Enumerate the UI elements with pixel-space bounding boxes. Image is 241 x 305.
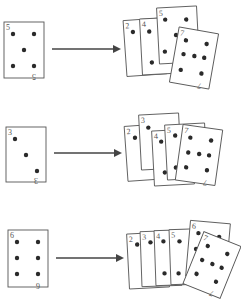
card-rank: 3 [141, 116, 145, 125]
card-rank: 6 [10, 231, 14, 240]
right-arrow-icon [54, 149, 122, 157]
card-rank-bottom: 6 [36, 281, 40, 290]
right-arrow-icon [56, 254, 124, 262]
right-arrow-icon [52, 45, 121, 53]
card-rank: 2 [125, 21, 130, 30]
card-rank: 4 [156, 232, 160, 241]
card-rank: 3 [8, 128, 12, 137]
card-rank: 4 [154, 132, 158, 141]
card-rank-bottom: 5 [32, 72, 36, 81]
card-diagram: 5 5 2 4 [0, 0, 241, 305]
source-card-3: 3 3 [6, 127, 46, 185]
pip [36, 240, 40, 244]
card-rank: 5 [167, 126, 171, 135]
pip [36, 256, 40, 260]
card-rank: 5 [6, 23, 10, 32]
pip [36, 272, 40, 276]
pip [15, 240, 19, 244]
source-card-6: 6 6 [8, 230, 48, 290]
pip [32, 64, 36, 68]
card-rank: 5 [159, 9, 163, 18]
card-rank-bottom: 3 [34, 176, 38, 185]
hand-2: 2 3 4 5 7 7 [124, 113, 223, 188]
pip [22, 48, 26, 52]
row-2: 3 3 2 3 4 [6, 113, 223, 188]
pip [32, 32, 36, 36]
pip [24, 153, 28, 157]
card-rank: 5 [171, 231, 175, 240]
card-rank: 6 [192, 222, 197, 231]
pip [35, 169, 39, 173]
hand-3: 2 3 4 5 6 [127, 220, 241, 301]
card-rank: 2 [129, 235, 133, 244]
hand-card-7: 7 7 [175, 124, 223, 188]
row-3: 6 6 2 3 4 [8, 220, 241, 301]
hand-1: 2 4 5 7 7 [123, 6, 218, 92]
card-rank: 2 [126, 127, 131, 136]
card-rank: 4 [142, 20, 146, 29]
source-card-5: 5 5 [4, 22, 44, 81]
card-rank: 3 [142, 233, 146, 242]
pip [11, 64, 15, 68]
pip [13, 137, 17, 141]
row-1: 5 5 2 4 [4, 6, 219, 92]
pip [15, 256, 19, 260]
pip [15, 272, 19, 276]
pip [11, 32, 15, 36]
